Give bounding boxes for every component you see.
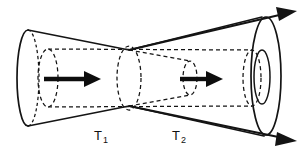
double-cone-diagram: T 1 T 2 — [0, 0, 307, 150]
figure-root: T 1 T 2 — [0, 0, 307, 150]
label-T1-subscript: 1 — [103, 135, 108, 145]
label-T1-base: T — [94, 128, 102, 143]
label-T2-base: T — [172, 128, 180, 143]
label-T2-subscript: 2 — [181, 135, 186, 145]
